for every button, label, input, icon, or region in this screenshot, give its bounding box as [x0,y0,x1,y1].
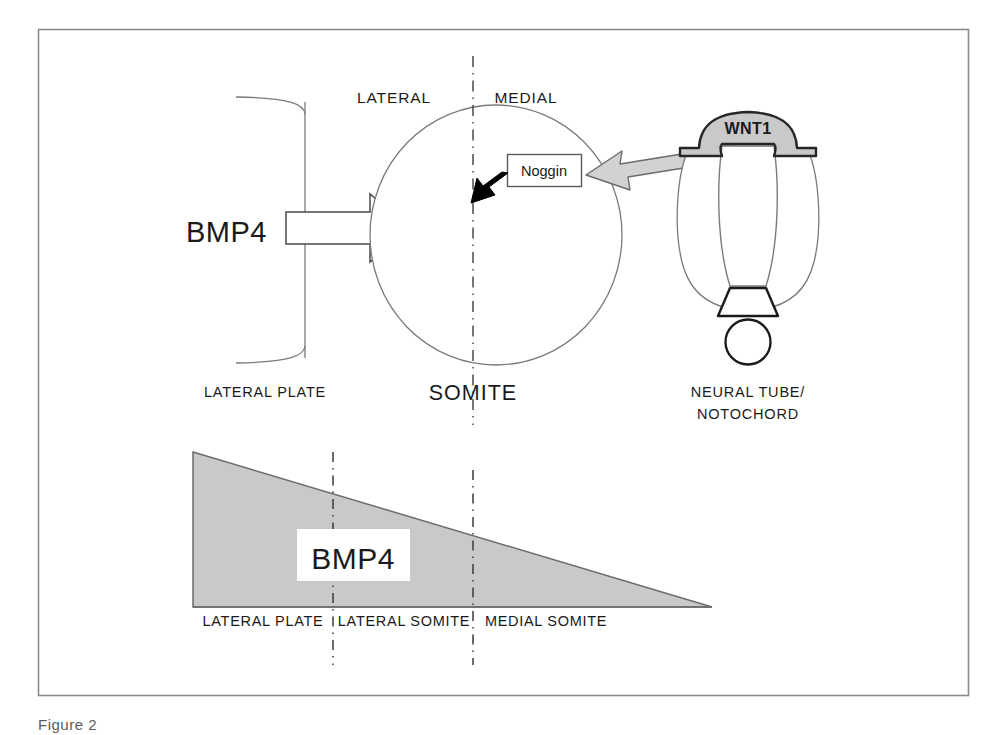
noggin-label: Noggin [521,163,567,179]
figure-caption: Figure 2 [38,716,97,735]
somite-ellipse [370,105,622,365]
somite-label: SOMITE [429,381,517,405]
gradient-zone-label-1: LATERAL SOMITE [338,613,470,629]
noggin-box: Noggin [508,155,582,187]
figure-root: BMP4 LATERAL MEDIAL Noggin WNT1 LATERA [0,0,1004,735]
medial-orientation-label: MEDIAL [494,89,557,106]
neural-tube-label-line2: NOTOCHORD [697,406,799,422]
gradient-zone-label-0: LATERAL PLATE [203,613,324,629]
bmp4-label-top: BMP4 [186,216,267,248]
neural-tube-label-line1: NEURAL TUBE/ [691,384,806,400]
bmp4-gradient-label-group: BMP4 [297,529,410,581]
wnt1-label: WNT1 [725,120,772,137]
diagram-canvas: BMP4 LATERAL MEDIAL Noggin WNT1 LATERA [0,0,1004,735]
lateral-plate-label: LATERAL PLATE [204,384,326,400]
lateral-orientation-label: LATERAL [357,89,431,106]
bmp4-gradient-label: BMP4 [311,542,395,575]
gradient-zone-label-2: MEDIAL SOMITE [485,613,607,629]
notochord-circle [726,320,771,365]
neural-tube: WNT1 [677,112,819,316]
